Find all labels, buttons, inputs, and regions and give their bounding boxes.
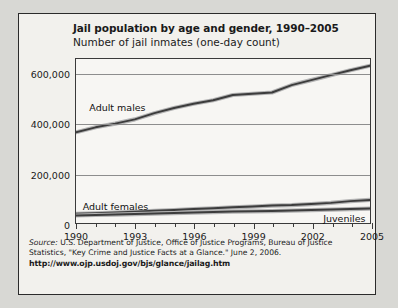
x-axis-tick	[273, 223, 274, 227]
plot-area: 0200,000400,000600,000199019931996199920…	[75, 58, 371, 224]
x-axis-tick	[135, 223, 136, 229]
x-axis-tick	[175, 223, 176, 227]
series-canvas	[76, 59, 370, 223]
figure-panel: Jail population by age and gender, 1990–…	[18, 13, 376, 295]
source-url[interactable]: http://www.ojp.usdoj.gov/bjs/glance/jail…	[29, 259, 365, 269]
y-axis-tick-label: 0	[64, 220, 70, 231]
x-axis-tick	[372, 223, 373, 229]
chart-title: Jail population by age and gender, 1990–…	[73, 22, 339, 34]
x-axis-tick	[254, 223, 255, 229]
source-body: U.S. Department of Justice, Office of Ju…	[29, 238, 332, 257]
source-note: Source: U.S. Department of Justice, Offi…	[29, 238, 365, 270]
gridline	[76, 124, 370, 125]
x-axis-tick	[194, 223, 195, 229]
x-axis-tick	[352, 223, 353, 227]
gridline	[76, 74, 370, 75]
x-axis-tick	[115, 223, 116, 227]
x-axis-tick	[333, 223, 334, 227]
gridline	[76, 175, 370, 176]
x-axis-tick	[155, 223, 156, 227]
series-label: Juveniles	[323, 212, 365, 223]
series-label: Adult females	[83, 200, 148, 211]
chart-subtitle: Number of jail inmates (one-day count)	[73, 36, 280, 48]
x-axis-tick	[76, 223, 77, 229]
y-axis-tick-label: 200,000	[31, 169, 70, 180]
y-axis-tick-label: 400,000	[31, 119, 70, 130]
source-label: Source:	[29, 238, 58, 247]
y-axis-tick-label: 600,000	[31, 69, 70, 80]
x-axis-tick	[214, 223, 215, 227]
x-axis-tick	[293, 223, 294, 227]
x-axis-tick	[96, 223, 97, 227]
x-axis-tick	[234, 223, 235, 227]
series-label: Adult males	[89, 102, 145, 113]
x-axis-tick	[313, 223, 314, 229]
